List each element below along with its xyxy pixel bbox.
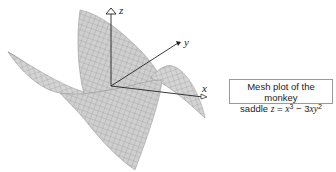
x-axis-label: x bbox=[201, 82, 207, 94]
surface-left-lower bbox=[8, 52, 90, 95]
figure-caption: Mesh plot of the monkey saddle z = x3 − … bbox=[229, 79, 333, 104]
caption-line-2: saddle z = x3 − 3xy2 bbox=[230, 103, 332, 115]
caption-line-1: Mesh plot of the monkey bbox=[230, 81, 332, 103]
z-axis-label: z bbox=[118, 4, 124, 16]
y-axis-label: y bbox=[183, 36, 189, 48]
